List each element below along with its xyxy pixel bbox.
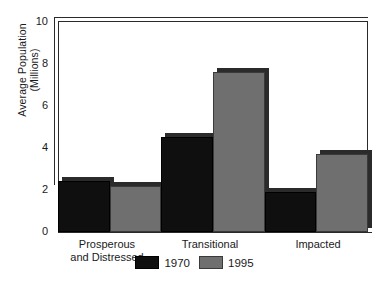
legend-item-1995: 1995: [199, 256, 254, 269]
bar-transitional-1970: [161, 137, 213, 232]
bar-impacted-1970: [265, 192, 317, 232]
chart-legend: 1970 1995: [0, 256, 389, 269]
bar-impacted-1995: [316, 154, 368, 232]
legend-label-1995: 1995: [228, 257, 254, 269]
legend-swatch-1995-icon: [199, 256, 223, 269]
bar-front-face: [316, 154, 368, 232]
bar-front-face: [58, 181, 110, 232]
x-category-transitional: Transitional: [155, 238, 265, 251]
bar-front-face: [213, 72, 265, 232]
legend-item-1970: 1970: [135, 256, 190, 269]
bar-transitional-1995: [213, 72, 265, 232]
bar-side-face: [368, 150, 372, 228]
legend-label-1970: 1970: [164, 257, 190, 269]
bar-prosperous-and-distressed-1995: [110, 186, 162, 232]
bar-front-face: [110, 186, 162, 232]
bar-front-face: [161, 137, 213, 232]
x-category-line-2a: Transitional: [155, 238, 265, 251]
x-category-line-3a: Impacted: [263, 238, 373, 251]
x-category-line-1a: Prosperous: [52, 238, 162, 251]
x-category-impacted: Impacted: [263, 238, 373, 251]
bar-chart: Average Population (Millions) 0 2 4 6 8 …: [0, 0, 389, 286]
legend-swatch-1970-icon: [135, 256, 159, 269]
x-axis-line: [58, 232, 372, 233]
bar-prosperous-and-distressed-1970: [58, 181, 110, 232]
bar-front-face: [265, 192, 317, 232]
